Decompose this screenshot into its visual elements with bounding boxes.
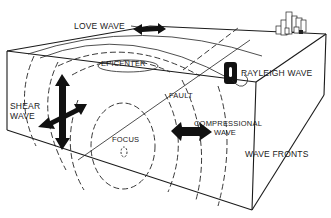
earth-block (7, 26, 326, 210)
focus-marker (121, 147, 127, 157)
block-right-back-edge (324, 34, 326, 95)
block-front-right-edge (252, 82, 256, 210)
wave-front-4b (218, 86, 227, 206)
compressional-wave-label-line2: WAVE (214, 128, 236, 137)
love-wave-label: LOVE WAVE (74, 21, 125, 31)
epicenter-label: EPICENTER (101, 59, 146, 68)
love-wave-arrow-icon (131, 23, 166, 35)
seismic-wave-diagram: LOVE WAVE EPICENTER RAYLEIGH WAVE SHEAR … (0, 0, 331, 218)
fault-line (78, 40, 250, 160)
compressional-wave-label-line1: COMPRESSIONAL (194, 119, 262, 128)
wave-front-1 (91, 103, 155, 189)
rayleigh-wave-label: RAYLEIGH WAVE (241, 68, 313, 78)
focus-label: FOCUS (112, 135, 139, 144)
fault-label: FAULT (169, 91, 193, 100)
shear-wave-cross-arrow-icon (38, 74, 87, 150)
wave-fronts-label: WAVE FRONTS (245, 149, 309, 159)
buildings-icon (276, 12, 306, 35)
wave-front-2b (165, 94, 178, 192)
shear-wave-label-line1: SHEAR (10, 101, 40, 111)
shear-wave-label-line2: WAVE (10, 111, 35, 121)
surface-front-4 (28, 35, 262, 56)
